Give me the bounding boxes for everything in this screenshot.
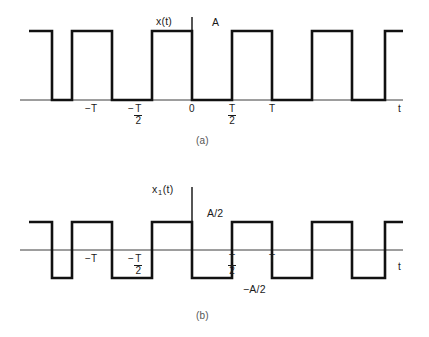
tick-label-neg-T-a: −T	[85, 104, 97, 114]
tick-label-neg-T-over-2-num-a: T	[134, 104, 142, 116]
tick-label-neg-T-b: −T	[85, 254, 97, 264]
amplitude-label-a: A	[212, 17, 219, 28]
tick-label-zero-a: 0	[189, 104, 195, 114]
panel-a: x(t) A −T − T 2 0 T 2 T t (a)	[0, 0, 429, 170]
tick-label-neg-T-over-2-b: − T 2	[128, 254, 142, 276]
signal-label-b: x1(t)	[152, 184, 173, 196]
figure-square-waveforms: x(t) A −T − T 2 0 T 2 T t (a)	[0, 0, 429, 337]
tick-label-T-over-2-num-b: T	[228, 254, 236, 266]
waveform-a	[29, 31, 403, 100]
signal-label-a: x(t)	[156, 16, 172, 27]
tick-label-T-b: T	[269, 254, 275, 264]
caption-b: (b)	[196, 311, 209, 321]
tick-label-T-a: T	[269, 104, 275, 114]
tick-label-neg-T-over-2-num-b: T	[134, 254, 142, 266]
amplitude-label-positive-b: A/2	[207, 208, 223, 219]
tick-label-T-over-2-den-a: 2	[229, 116, 235, 127]
tick-label-T-over-2-num-a: T	[228, 104, 236, 116]
signal-label-b-tail: (t)	[163, 183, 174, 195]
caption-a: (a)	[196, 136, 209, 146]
x-axis-label-b: t	[398, 262, 401, 272]
tick-label-neg-T-over-2-a: − T 2	[128, 104, 142, 126]
tick-label-neg-T-over-2-den-b: 2	[136, 266, 142, 277]
tick-label-neg-T-over-2-den-a: 2	[136, 116, 142, 127]
panel-b: x1(t) A/2 −A/2 −T − T 2 T 2 T t (b)	[0, 170, 429, 337]
tick-label-T-over-2-den-b: 2	[229, 266, 235, 277]
amplitude-label-negative-b: −A/2	[243, 284, 266, 295]
tick-label-T-over-2-a: T 2	[228, 104, 236, 126]
tick-label-T-over-2-b: T 2	[228, 254, 236, 276]
x-axis-label-a: t	[398, 104, 401, 114]
plot-b-canvas	[0, 170, 429, 337]
